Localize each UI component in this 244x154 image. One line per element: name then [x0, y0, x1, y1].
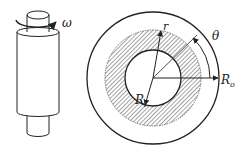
- theta-label: θ: [212, 29, 220, 43]
- bottom-shaft-end: [27, 133, 49, 137]
- svg-text:R: R: [220, 73, 230, 87]
- rotation-arrow-icon: [16, 20, 56, 27]
- cylinder-illustration: [16, 11, 59, 137]
- diagram-canvas: ω r θ R i R o: [0, 0, 244, 154]
- omega-label: ω: [62, 16, 72, 30]
- cylinder-top: [17, 28, 59, 37]
- cylinder-bottom: [17, 112, 59, 117]
- shaft-top: [27, 11, 49, 19]
- cross-section: [87, 12, 219, 144]
- ro-label: R o: [220, 73, 235, 89]
- svg-text:o: o: [230, 80, 235, 89]
- svg-text:i: i: [144, 100, 147, 109]
- r-label: r: [163, 20, 169, 33]
- svg-text:R: R: [134, 93, 144, 107]
